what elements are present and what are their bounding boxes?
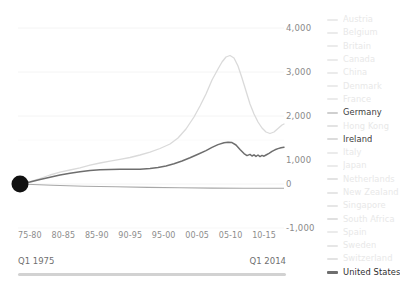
x-axis-labels: 75-80 80-85 85-90 90-95 95-00 00-05 05-1…: [18, 231, 276, 240]
x-tick-10-15: 10-15: [252, 231, 276, 240]
legend-swatch-icon: [327, 178, 338, 180]
legend-label: United States: [343, 268, 400, 277]
legend-swatch-icon: [327, 271, 338, 274]
legend-label: Japan: [343, 161, 367, 170]
legend-item-austria[interactable]: Austria: [327, 13, 413, 26]
range-end-label: Q1 2014: [250, 256, 286, 266]
legend-item-south-africa[interactable]: South Africa: [327, 212, 413, 225]
x-tick-05-10: 05-10: [219, 231, 243, 240]
legend-item-united-states[interactable]: United States: [327, 266, 413, 279]
legend-label: Singapore: [343, 201, 386, 210]
legend-label: France: [343, 95, 371, 104]
legend-swatch-icon: [327, 72, 338, 74]
legend-label: Hong Kong: [343, 122, 389, 131]
legend-label: New Zealand: [343, 188, 399, 197]
legend-item-italy[interactable]: Italy: [327, 146, 413, 159]
legend-label: South Africa: [343, 215, 395, 224]
legend-label: Spain: [343, 228, 367, 237]
series-line-united-states: [20, 142, 284, 184]
legend-swatch-icon: [327, 112, 338, 114]
legend-item-china[interactable]: China: [327, 66, 413, 79]
legend-label: Netherlands: [343, 175, 395, 184]
legend-item-france[interactable]: France: [327, 93, 413, 106]
y-tick-0: 0: [286, 179, 320, 189]
chart-panel: 4,000 3,000 2,000 1,000 0 -1,000 75-80 8…: [0, 0, 322, 302]
legend-item-denmark[interactable]: Denmark: [327, 79, 413, 92]
y-tick-4000: 4,000: [286, 23, 320, 33]
y-tick-3000: 3,000: [286, 67, 320, 77]
legend-label: Austria: [343, 15, 373, 24]
range-start-label: Q1 1975: [18, 256, 54, 266]
y-tick-neg1000: -1,000: [286, 223, 320, 233]
legend-item-japan[interactable]: Japan: [327, 159, 413, 172]
legend-swatch-icon: [327, 45, 338, 47]
legend-label: Denmark: [343, 82, 382, 91]
legend-label: Canada: [343, 55, 375, 64]
legend-swatch-icon: [327, 165, 338, 167]
legend-item-hong-kong[interactable]: Hong Kong: [327, 119, 413, 132]
legend-label: Britain: [343, 42, 371, 51]
legend-swatch-icon: [327, 85, 338, 87]
legend-swatch-icon: [327, 218, 338, 220]
legend-item-germany[interactable]: Germany: [327, 106, 413, 119]
legend-swatch-icon: [327, 59, 338, 61]
time-range-control[interactable]: Q1 1975 Q1 2014: [18, 256, 286, 276]
legend-item-belgium[interactable]: Belgium: [327, 26, 413, 39]
legend-swatch-icon: [327, 192, 338, 194]
legend-swatch-icon: [327, 125, 338, 127]
gridlines: [18, 28, 284, 228]
legend-swatch-icon: [327, 231, 338, 233]
series-line-ireland: [20, 56, 284, 185]
origin-marker-dot: [12, 176, 29, 193]
legend-item-canada[interactable]: Canada: [327, 53, 413, 66]
legend-label: Italy: [343, 148, 362, 157]
legend-item-ireland[interactable]: Ireland: [327, 133, 413, 146]
legend-label: Germany: [343, 108, 382, 117]
legend-swatch-icon: [327, 32, 338, 34]
legend-item-netherlands[interactable]: Netherlands: [327, 173, 413, 186]
x-tick-85-90: 85-90: [85, 231, 109, 240]
x-tick-00-05: 00-05: [185, 231, 209, 240]
legend-label: China: [343, 68, 367, 77]
legend-swatch-icon: [327, 152, 338, 154]
y-tick-1000: 1,000: [286, 155, 320, 165]
legend-item-sweden[interactable]: Sweden: [327, 239, 413, 252]
legend-label: Ireland: [343, 135, 372, 144]
x-tick-95-00: 95-00: [152, 231, 176, 240]
range-labels: Q1 1975 Q1 2014: [18, 256, 286, 266]
x-tick-90-95: 90-95: [118, 231, 142, 240]
legend-swatch-icon: [327, 245, 338, 247]
legend-item-switzerland[interactable]: Switzerland: [327, 252, 413, 265]
y-tick-2000: 2,000: [286, 111, 320, 121]
legend-item-britain[interactable]: Britain: [327, 40, 413, 53]
range-slider-track[interactable]: [18, 273, 286, 276]
legend-label: Sweden: [343, 241, 376, 250]
legend: Austria Belgium Britain Canada China Den…: [327, 13, 413, 279]
legend-swatch-icon: [327, 205, 338, 207]
legend-label: Belgium: [343, 28, 378, 37]
x-tick-75-80: 75-80: [18, 231, 42, 240]
legend-label: Switzerland: [343, 254, 393, 263]
legend-item-spain[interactable]: Spain: [327, 226, 413, 239]
legend-swatch-icon: [327, 258, 338, 260]
legend-swatch-icon: [327, 19, 338, 21]
legend-swatch-icon: [327, 98, 338, 100]
series-line-germany: [20, 184, 284, 188]
legend-item-singapore[interactable]: Singapore: [327, 199, 413, 212]
x-tick-80-85: 80-85: [51, 231, 75, 240]
legend-swatch-icon: [327, 138, 338, 140]
legend-item-new-zealand[interactable]: New Zealand: [327, 186, 413, 199]
